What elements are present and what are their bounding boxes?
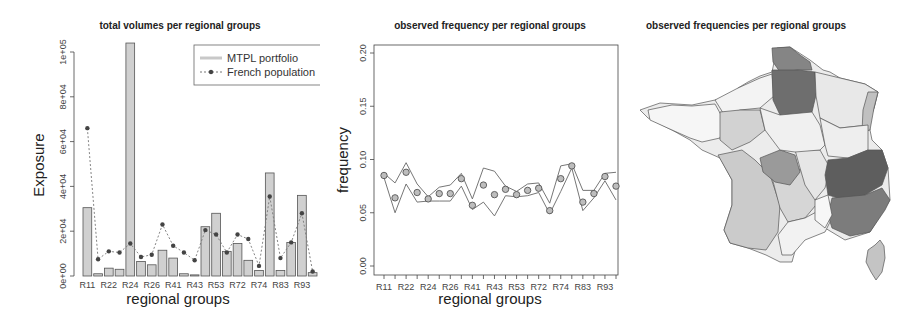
y-axis: 0e+002e+044e+046e+048e+041e+05 <box>58 39 74 288</box>
observed-point-R43 <box>491 191 497 197</box>
y-tick-label: 0.05 <box>358 204 368 222</box>
observed-point-R25 <box>436 190 442 196</box>
population-point-R42 <box>182 250 186 254</box>
observed-point-R26 <box>447 190 453 196</box>
x-tick-label: R24 <box>122 280 139 290</box>
x-tick-label: R93 <box>597 282 614 292</box>
bar-R26 <box>147 265 156 276</box>
map-region-corsica <box>866 240 885 280</box>
observed-point-R21 <box>392 195 398 201</box>
observed-point-R53 <box>513 191 519 197</box>
y-axis-label: frequency <box>334 127 351 193</box>
x-tick-label: R72 <box>229 280 246 290</box>
y-tick-label: 0.20 <box>358 44 368 62</box>
observed-point-R52 <box>502 186 508 192</box>
bar-R53 <box>212 213 221 276</box>
bar-R41 <box>169 258 178 276</box>
bar-R11 <box>83 208 92 276</box>
observed-point-R11 <box>381 172 387 178</box>
observed-point-R22 <box>403 169 409 175</box>
x-axis-label: regional groups <box>126 290 229 307</box>
x-axis-ticks: R11R22R24R26R41R43R53R72R74R83R93 <box>79 280 310 290</box>
observed-point-R73 <box>547 207 553 213</box>
map-region-west <box>648 104 725 142</box>
bar-R24 <box>126 43 135 276</box>
frequency-line-chart: observed frequency per regional groups 0… <box>320 0 620 320</box>
x-tick-label: R74 <box>553 282 570 292</box>
bar-R23 <box>115 269 124 276</box>
bar-R73 <box>244 260 253 276</box>
bar-R72 <box>233 244 242 276</box>
population-point-R53 <box>214 232 218 236</box>
x-tick-label: R24 <box>420 282 437 292</box>
exposure-bar-chart: total volumes per regional groups 0e+002… <box>0 0 320 320</box>
map-region-nord <box>772 47 812 72</box>
population-point-R91 <box>289 240 293 244</box>
x-tick-label: R74 <box>251 280 268 290</box>
bar-R42 <box>180 274 189 276</box>
population-point-R83 <box>278 256 282 260</box>
observed-point-R74 <box>558 175 564 181</box>
observed-point-R72 <box>535 185 541 191</box>
y-tick-label: 0e+00 <box>58 263 68 288</box>
map-region-idf-picardie <box>772 70 816 118</box>
plot-frame <box>374 45 618 275</box>
population-point-R72 <box>235 232 239 236</box>
observed-point-R54 <box>524 187 530 193</box>
bar-R74 <box>255 270 264 276</box>
x-tick-label: R41 <box>165 280 182 290</box>
y-tick-label: 0.15 <box>358 97 368 115</box>
legend-label-population: French population <box>227 66 315 78</box>
bar-R25 <box>137 261 146 276</box>
bar-R91 <box>287 242 296 276</box>
y-tick-label: 8e+04 <box>58 84 68 109</box>
population-point-R22 <box>107 249 111 253</box>
x-tick-label: R26 <box>143 280 160 290</box>
frequency-line-chart-panel: observed frequency per regional groups 0… <box>320 0 620 320</box>
x-tick-label: R22 <box>398 282 415 292</box>
legend-label-mtpl: MTPL portfolio <box>227 52 298 64</box>
bar-R21 <box>94 274 103 276</box>
france-choropleth-map-panel: observed frequencies per regional groups <box>620 0 920 320</box>
bar-R22 <box>104 268 113 276</box>
chart-title: total volumes per regional groups <box>99 20 261 31</box>
y-tick-label: 1e+05 <box>58 39 68 64</box>
population-point-R24 <box>128 241 132 245</box>
x-tick-label: R83 <box>575 282 592 292</box>
observed-point-R31 <box>458 175 464 181</box>
y-axis: 0.000.050.100.150.20 <box>358 44 374 275</box>
chart-title: observed frequency per regional groups <box>394 20 586 31</box>
observed-point-R93 <box>602 173 608 179</box>
population-point-R94 <box>310 269 314 273</box>
population-point-R54 <box>225 250 229 254</box>
y-tick-label: 2e+04 <box>58 219 68 244</box>
upper-bound-line <box>384 163 616 203</box>
population-point-R26 <box>150 253 154 257</box>
map-regions <box>640 47 890 262</box>
x-tick-label: R43 <box>186 280 203 290</box>
france-map: observed frequencies per regional groups <box>620 0 920 320</box>
x-tick-label: R11 <box>79 280 95 290</box>
population-point-R52 <box>203 228 207 232</box>
x-tick-label: R83 <box>272 280 289 290</box>
x-tick-label: R11 <box>376 282 392 292</box>
legend-point-marker <box>209 70 213 74</box>
observed-point-R82 <box>569 163 575 169</box>
population-point-R21 <box>96 257 100 261</box>
population-point-R93 <box>300 211 304 215</box>
observed-point-R94 <box>613 183 619 189</box>
population-point-R25 <box>139 255 143 259</box>
population-line <box>85 126 315 274</box>
population-point-R74 <box>257 264 261 268</box>
x-tick-label: R93 <box>294 280 311 290</box>
y-tick-label: 0.00 <box>358 257 368 275</box>
legend: MTPL portfolio French population <box>194 45 320 85</box>
observed-point-R23 <box>414 189 420 195</box>
x-tick-label: R22 <box>101 280 118 290</box>
population-point-R41 <box>171 244 175 248</box>
bar-R83 <box>276 270 285 276</box>
y-tick-label: 6e+04 <box>58 129 68 154</box>
bar-R31 <box>158 250 167 276</box>
bar-R82 <box>265 173 274 276</box>
y-tick-label: 4e+04 <box>58 174 68 199</box>
